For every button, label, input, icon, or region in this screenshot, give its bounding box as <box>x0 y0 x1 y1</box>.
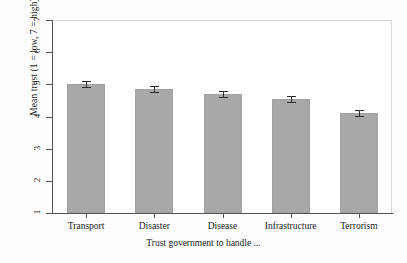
bar <box>272 99 310 213</box>
bar <box>135 89 173 213</box>
y-tick-label: 4 <box>32 109 42 123</box>
x-tick <box>154 213 155 218</box>
x-tick-label: Transport <box>52 221 120 231</box>
error-cap-upper <box>150 86 159 87</box>
x-tick-label: Terrorism <box>325 221 393 231</box>
chart-figure: Mean trust (1 = low, 7 = high) 1234567 T… <box>0 0 407 263</box>
y-tick-label: 1 <box>32 205 42 219</box>
y-tick <box>46 149 52 150</box>
x-tick <box>86 213 87 218</box>
error-cap-upper <box>355 110 364 111</box>
x-tick-label: Disaster <box>120 221 188 231</box>
x-tick <box>223 213 224 218</box>
bar <box>204 94 242 213</box>
error-cap-upper <box>287 96 296 97</box>
error-cap-lower <box>150 92 159 93</box>
bar <box>67 84 105 213</box>
y-tick <box>46 213 52 214</box>
error-cap-lower <box>287 102 296 103</box>
y-tick <box>46 20 52 21</box>
x-tick-label: Disease <box>188 221 256 231</box>
x-tick-label: Infrastructure <box>257 221 325 231</box>
error-cap-lower <box>219 97 228 98</box>
y-tick-label: 7 <box>32 12 42 26</box>
y-tick <box>46 117 52 118</box>
y-tick <box>46 52 52 53</box>
y-tick-label: 2 <box>32 173 42 187</box>
error-cap-upper <box>82 81 91 82</box>
y-tick <box>46 181 52 182</box>
y-tick <box>46 84 52 85</box>
y-tick-label: 3 <box>32 141 42 155</box>
x-tick <box>359 213 360 218</box>
error-cap-lower <box>82 87 91 88</box>
x-tick <box>291 213 292 218</box>
x-axis-title: Trust government to handle ... <box>0 238 407 248</box>
y-tick-label: 5 <box>32 76 42 90</box>
error-cap-upper <box>219 91 228 92</box>
y-tick-label: 6 <box>32 44 42 58</box>
bar <box>340 113 378 213</box>
y-axis-line <box>52 20 53 214</box>
error-cap-lower <box>355 116 364 117</box>
